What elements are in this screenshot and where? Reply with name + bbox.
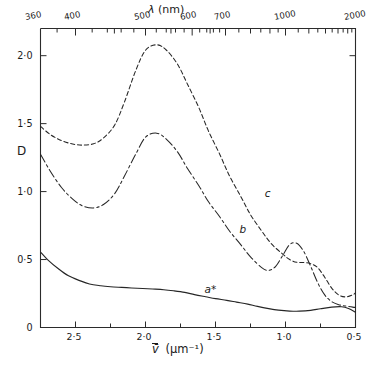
curve-annotation-c: c [265,188,271,199]
curve-annotation-b: b [240,224,247,235]
curve-c [41,45,356,297]
curve-annotation-astar: a* [205,284,217,295]
x-tick-label: 1·5 [207,332,222,341]
x-axis-unit: (μm⁻¹) [165,342,203,356]
x-tick-label: 0·5 [347,332,362,341]
curve-b [41,133,356,307]
x-tick-label: 1·0 [277,332,292,341]
y-tick-label: 1·5 [11,119,33,129]
x-axis-label: v̄ (μm⁻¹) [152,344,204,356]
y-tick-label: 1·0 [11,187,33,197]
plot-canvas [0,0,366,369]
x-tick-label: 2·5 [67,332,82,341]
y-tick-label: 0 [26,323,33,333]
y-axis-label: D [17,145,26,157]
x-tick-label: 2·0 [137,332,152,341]
nu-bar-symbol: v̄ [152,344,159,356]
spectra-figure: λ (nm) D v̄ (μm⁻¹) 360400500600700100020… [0,0,366,369]
nu-symbol: v̄ [152,342,159,356]
y-tick-label: 2·0 [11,51,33,61]
data-curves [41,45,356,312]
overbar [152,343,158,344]
axis-frame [41,29,356,328]
y-tick-label: 0·5 [11,255,33,265]
axis-ticks [41,29,356,328]
